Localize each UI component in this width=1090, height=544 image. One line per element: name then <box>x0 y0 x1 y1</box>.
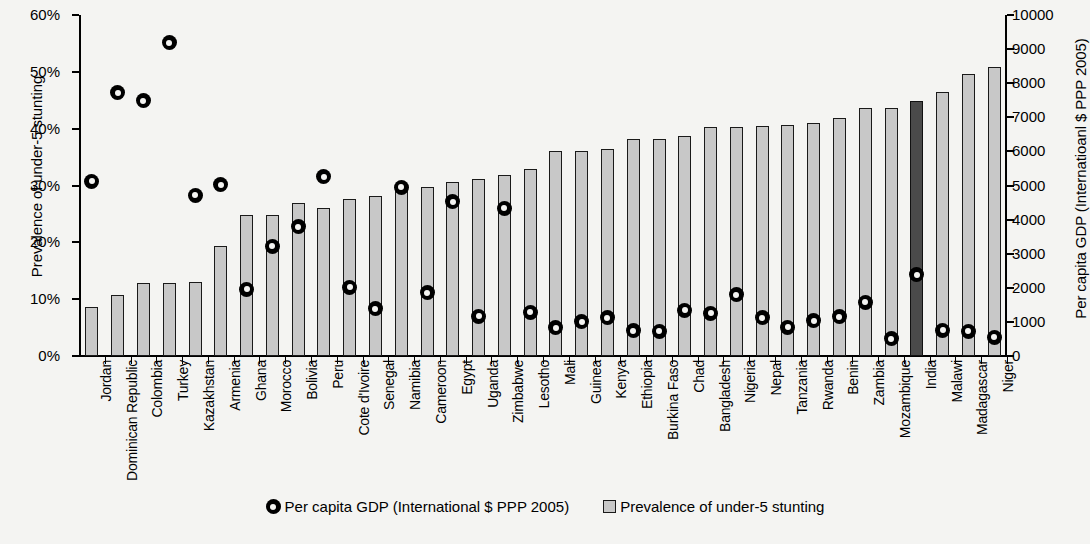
right-tick-label: 8000 <box>1012 75 1082 91</box>
gdp-point-morocco <box>265 239 280 254</box>
left-tick-label: 60% <box>0 7 60 23</box>
right-tick-label: 2000 <box>1012 280 1082 296</box>
category-label-mozambique: Mozambique <box>897 360 913 438</box>
gdp-point-turkey <box>162 35 177 50</box>
gdp-point-tanzania <box>780 320 795 335</box>
chart-legend: Per capita GDP (International $ PPP 2005… <box>0 498 1090 515</box>
gdp-point-uganda <box>471 309 486 324</box>
category-label-zambia: Zambia <box>871 360 887 405</box>
gdp-point-mozambique <box>884 331 899 346</box>
category-label-senegal: Senegal <box>381 360 397 410</box>
left-tick-mark <box>72 128 79 130</box>
right-tick-label: 5000 <box>1012 178 1082 194</box>
category-label-kazakhstan: Kazakhstan <box>201 360 217 431</box>
legend-item-stunting: Prevalence of under-5 stunting <box>603 498 824 515</box>
gdp-point-malawi <box>935 323 950 338</box>
right-tick-label: 4000 <box>1012 212 1082 228</box>
gdp-point-niger <box>987 330 1002 345</box>
category-label-india: India <box>923 360 939 389</box>
category-label-mali: Mali <box>562 360 578 385</box>
category-label-colombia: Colombia <box>149 360 165 418</box>
gdp-point-senegal <box>368 301 383 316</box>
category-label-nepal: Nepal <box>768 360 784 396</box>
left-tick-mark <box>72 241 79 243</box>
category-label-bangladesh: Bangladesh <box>717 360 733 432</box>
category-label-malawi: Malawi <box>949 360 965 402</box>
category-label-uganda: Uganda <box>485 360 501 408</box>
right-tick-label: 6000 <box>1012 143 1082 159</box>
right-tick-mark <box>1007 287 1014 289</box>
gdp-point-zimbabwe <box>497 201 512 216</box>
left-tick-label: 10% <box>0 291 60 307</box>
stunting-swatch-icon <box>603 500 616 513</box>
category-label-peru: Peru <box>330 360 346 389</box>
category-label-madagascar: Madagascar <box>974 360 990 435</box>
category-label-guinea: Guinea <box>588 360 604 404</box>
category-label-ethiopia: Ethiopia <box>639 360 655 409</box>
right-tick-mark <box>1007 48 1014 50</box>
left-tick-label: 40% <box>0 121 60 137</box>
category-label-egypt: Egypt <box>459 360 475 395</box>
right-tick-mark <box>1007 150 1014 152</box>
plot-area <box>79 15 1007 356</box>
gdp-point-namibia <box>394 180 409 195</box>
right-tick-mark <box>1007 82 1014 84</box>
gdp-point-kazakhstan <box>188 188 203 203</box>
gdp-point-jordan <box>84 174 99 189</box>
gdp-point-benin <box>832 309 847 324</box>
category-label-armenia: Armenia <box>227 360 243 411</box>
category-label-chad: Chad <box>691 360 707 393</box>
gdp-point-peru <box>316 169 331 184</box>
left-tick-mark <box>72 71 79 73</box>
left-tick-label: 0% <box>0 348 60 364</box>
right-tick-label: 10000 <box>1012 7 1082 23</box>
gdp-point-nigeria <box>729 287 744 302</box>
category-label-morocco: Morocco <box>278 360 294 412</box>
right-tick-mark <box>1007 116 1014 118</box>
gdp-point-ethiopia <box>626 323 641 338</box>
gdp-point-egypt <box>445 194 460 209</box>
stunting-gdp-chart: Prevalence of under-5 stunting Per capit… <box>0 0 1090 544</box>
gdp-point-bolivia <box>291 219 306 234</box>
category-label-cameroon: Cameroon <box>433 360 449 424</box>
right-tick-mark <box>1007 219 1014 221</box>
gdp-point-lesotho <box>523 305 538 320</box>
gdp-point-cameroon <box>420 285 435 300</box>
category-label-nigeria: Nigeria <box>742 360 758 403</box>
gdp-point-dominican-republic <box>110 85 125 100</box>
gdp-point-zambia <box>858 295 873 310</box>
gdp-point-chad <box>677 303 692 318</box>
category-label-turkey: Turkey <box>175 360 191 401</box>
category-label-zimbabwe: Zimbabwe <box>510 360 526 423</box>
category-label-lesotho: Lesotho <box>536 360 552 408</box>
category-label-ghana: Ghana <box>253 360 269 401</box>
right-tick-label: 0 <box>1012 348 1082 364</box>
left-tick-mark <box>72 355 79 357</box>
legend-item-gdp: Per capita GDP (International $ PPP 2005… <box>266 498 570 515</box>
left-tick-label: 30% <box>0 178 60 194</box>
left-tick-mark <box>72 14 79 16</box>
category-label-benin: Benin <box>845 360 861 395</box>
left-tick-label: 20% <box>0 234 60 250</box>
category-axis-labels: JordanDominican RepublicColombiaTurkeyKa… <box>79 360 1007 490</box>
gdp-point-ghana <box>239 282 254 297</box>
right-tick-mark <box>1007 253 1014 255</box>
gdp-point-armenia <box>213 177 228 192</box>
right-tick-label: 3000 <box>1012 246 1082 262</box>
left-tick-label: 50% <box>0 64 60 80</box>
gdp-point-kenya <box>600 310 615 325</box>
gdp-point-cote-d-ivoire <box>342 280 357 295</box>
category-label-jordan: Jordan <box>98 360 114 402</box>
gdp-point-bangladesh <box>703 306 718 321</box>
category-label-bolivia: Bolivia <box>304 360 320 400</box>
left-tick-mark <box>72 185 79 187</box>
category-label-tanzania: Tanzania <box>794 360 810 414</box>
right-tick-label: 7000 <box>1012 109 1082 125</box>
legend-label-stunting: Prevalence of under-5 stunting <box>620 498 824 515</box>
gdp-point-india <box>909 267 924 282</box>
gdp-point-guinea <box>574 314 589 329</box>
gdp-point-rwanda <box>806 313 821 328</box>
category-label-burkina-faso: Burkina Faso <box>665 360 681 440</box>
gdp-point-colombia <box>136 93 151 108</box>
legend-label-gdp: Per capita GDP (International $ PPP 2005… <box>285 498 570 515</box>
